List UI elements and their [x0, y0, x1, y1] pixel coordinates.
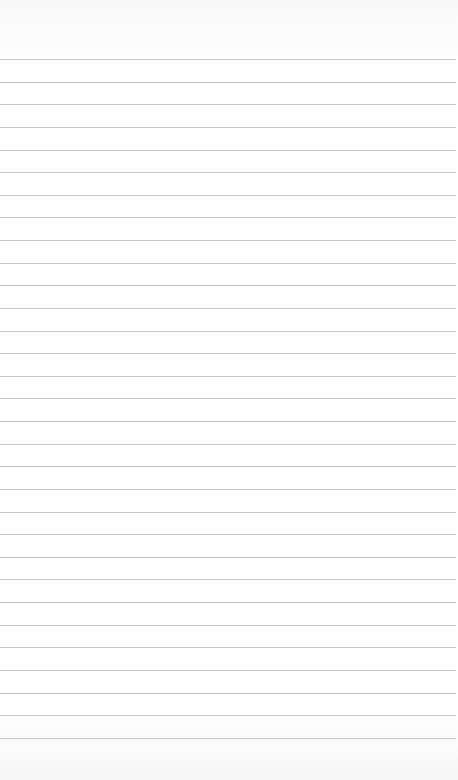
ruled-line: [0, 263, 456, 264]
ruled-line: [0, 557, 456, 558]
ruled-line: [0, 172, 456, 173]
ruled-line: [0, 421, 456, 422]
ruled-line: [0, 512, 456, 513]
ruled-line: [0, 217, 456, 218]
ruled-line: [0, 625, 456, 626]
ruled-line: [0, 602, 456, 603]
lined-paper-sheet: [0, 0, 458, 780]
ruled-line: [0, 285, 456, 286]
ruled-line: [0, 195, 456, 196]
ruled-line: [0, 150, 456, 151]
ruled-line: [0, 308, 456, 309]
ruled-line: [0, 376, 456, 377]
ruled-line: [0, 240, 456, 241]
ruled-line: [0, 738, 456, 739]
ruled-line: [0, 670, 456, 671]
ruled-line: [0, 647, 456, 648]
ruled-line: [0, 466, 456, 467]
ruled-line: [0, 104, 456, 105]
ruled-line: [0, 59, 456, 60]
ruled-line: [0, 534, 456, 535]
ruled-line: [0, 693, 456, 694]
ruled-line: [0, 398, 456, 399]
ruled-line: [0, 489, 456, 490]
ruled-line: [0, 444, 456, 445]
ruled-line: [0, 353, 456, 354]
ruled-line: [0, 715, 456, 716]
ruled-line: [0, 82, 456, 83]
ruled-line: [0, 579, 456, 580]
ruled-line: [0, 331, 456, 332]
ruled-line: [0, 127, 456, 128]
